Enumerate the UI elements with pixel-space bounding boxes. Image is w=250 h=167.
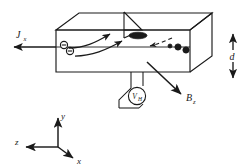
hole-carrier-group: [168, 44, 189, 53]
thickness-label: d: [230, 51, 236, 62]
axis-label-x: x: [76, 156, 81, 166]
ellipse-contact-icon: [129, 32, 147, 39]
current-density-subscript: x: [23, 35, 27, 42]
coordinate-axes: [26, 118, 73, 158]
slab-front-face: [56, 30, 190, 72]
hall-effect-drawing: J x: [0, 0, 250, 167]
axis-x-arrow: [58, 147, 73, 158]
magnetic-field-subscript: z: [192, 98, 196, 105]
electron-carrier-1: [60, 41, 67, 48]
slab-right-face: [190, 13, 212, 72]
voltmeter-circle-icon: [128, 87, 145, 104]
current-density-label: J: [16, 29, 21, 40]
magnetic-field-label: B: [186, 92, 192, 103]
hall-effect-figure: J x: [0, 0, 250, 167]
curved-arrow-icon: [69, 34, 122, 56]
arrow-down-right-icon: [147, 62, 181, 94]
axis-label-z: z: [14, 137, 19, 147]
axis-label-y: y: [60, 111, 65, 121]
